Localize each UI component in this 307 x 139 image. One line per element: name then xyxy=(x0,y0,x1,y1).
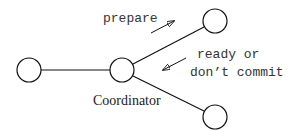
reply-label-line2: don’t commit xyxy=(190,65,284,80)
reply-arrow-icon xyxy=(163,58,186,70)
edge-coordinator-top xyxy=(133,27,204,64)
node-participant-left xyxy=(17,58,41,82)
node-coordinator xyxy=(110,58,134,82)
node-participant-top xyxy=(203,9,227,33)
node-participant-bottom xyxy=(203,105,227,129)
prepare-label: prepare xyxy=(103,11,158,26)
reply-label-line1: ready or xyxy=(197,47,259,62)
coordinator-label: Coordinator xyxy=(93,93,161,108)
two-phase-commit-diagram: prepare ready or don’t commit Coordinato… xyxy=(0,0,307,139)
